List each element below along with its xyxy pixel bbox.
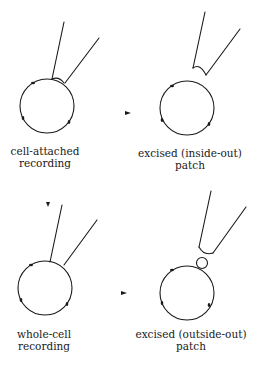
arrow-right-icon	[121, 291, 127, 295]
label-line: whole-cell	[0, 328, 88, 340]
pipette-wall-left	[193, 12, 205, 68]
pipette-wall-right	[65, 38, 99, 83]
arrow-right-icon	[125, 111, 131, 115]
label-line: patch	[130, 159, 250, 171]
outside-out-panel	[160, 191, 246, 320]
label-line: excised (inside-out)	[130, 147, 250, 159]
panel-label-whole-cell: whole-cell recording	[0, 328, 88, 352]
whole-cell-panel	[18, 205, 97, 315]
pipette-tip-patch	[199, 247, 213, 254]
label-line: recording	[0, 157, 90, 169]
vesicle-bleb	[197, 258, 208, 269]
label-line: recording	[0, 340, 88, 352]
excised-patch	[193, 67, 206, 75]
cell-circle	[160, 266, 214, 320]
inside-out-panel	[160, 12, 240, 135]
label-line: cell-attached	[0, 145, 90, 157]
cell-circle	[18, 261, 72, 315]
pipette-wall-right	[213, 207, 246, 253]
panel-label-cell-attached: cell-attached recording	[0, 145, 90, 169]
label-line: patch	[128, 340, 254, 352]
cell-attached-panel	[20, 22, 99, 133]
pipette-wall-left	[199, 191, 211, 247]
pipette-wall-right	[206, 29, 240, 75]
pipette-wall-right	[64, 220, 97, 265]
panel-label-outside-out: excised (outside-out) patch	[128, 328, 254, 352]
panel-label-inside-out: excised (inside-out) patch	[130, 147, 250, 171]
patch-clamp-diagram	[0, 0, 263, 368]
cell-circle	[20, 79, 74, 133]
label-line: excised (outside-out)	[128, 328, 254, 340]
membrane-patch	[52, 78, 64, 83]
arrow-down-icon	[46, 202, 50, 207]
pipette-wall-left	[50, 205, 62, 262]
channel-marks	[20, 82, 211, 307]
cell-circle	[160, 81, 214, 135]
transition-arrows	[46, 111, 131, 295]
pipette-wall-left	[52, 22, 64, 79]
